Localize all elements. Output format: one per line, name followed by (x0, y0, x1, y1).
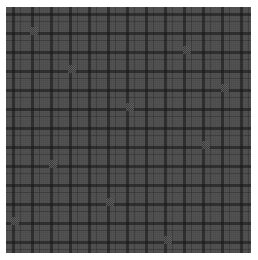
weave-detail (202, 141, 210, 149)
weave-detail (68, 65, 76, 73)
plaid-texture (6, 7, 251, 253)
weave-detail (11, 217, 19, 225)
image-canvas: Dark gray plaid / tartan fabric texture … (0, 0, 258, 260)
weave-detail (183, 46, 191, 54)
weave-detail (106, 198, 114, 206)
weave-detail (221, 84, 229, 92)
weave-detail (49, 160, 57, 168)
weave-detail (30, 27, 38, 35)
weave-detail (164, 236, 172, 244)
weave-detail (126, 103, 134, 111)
